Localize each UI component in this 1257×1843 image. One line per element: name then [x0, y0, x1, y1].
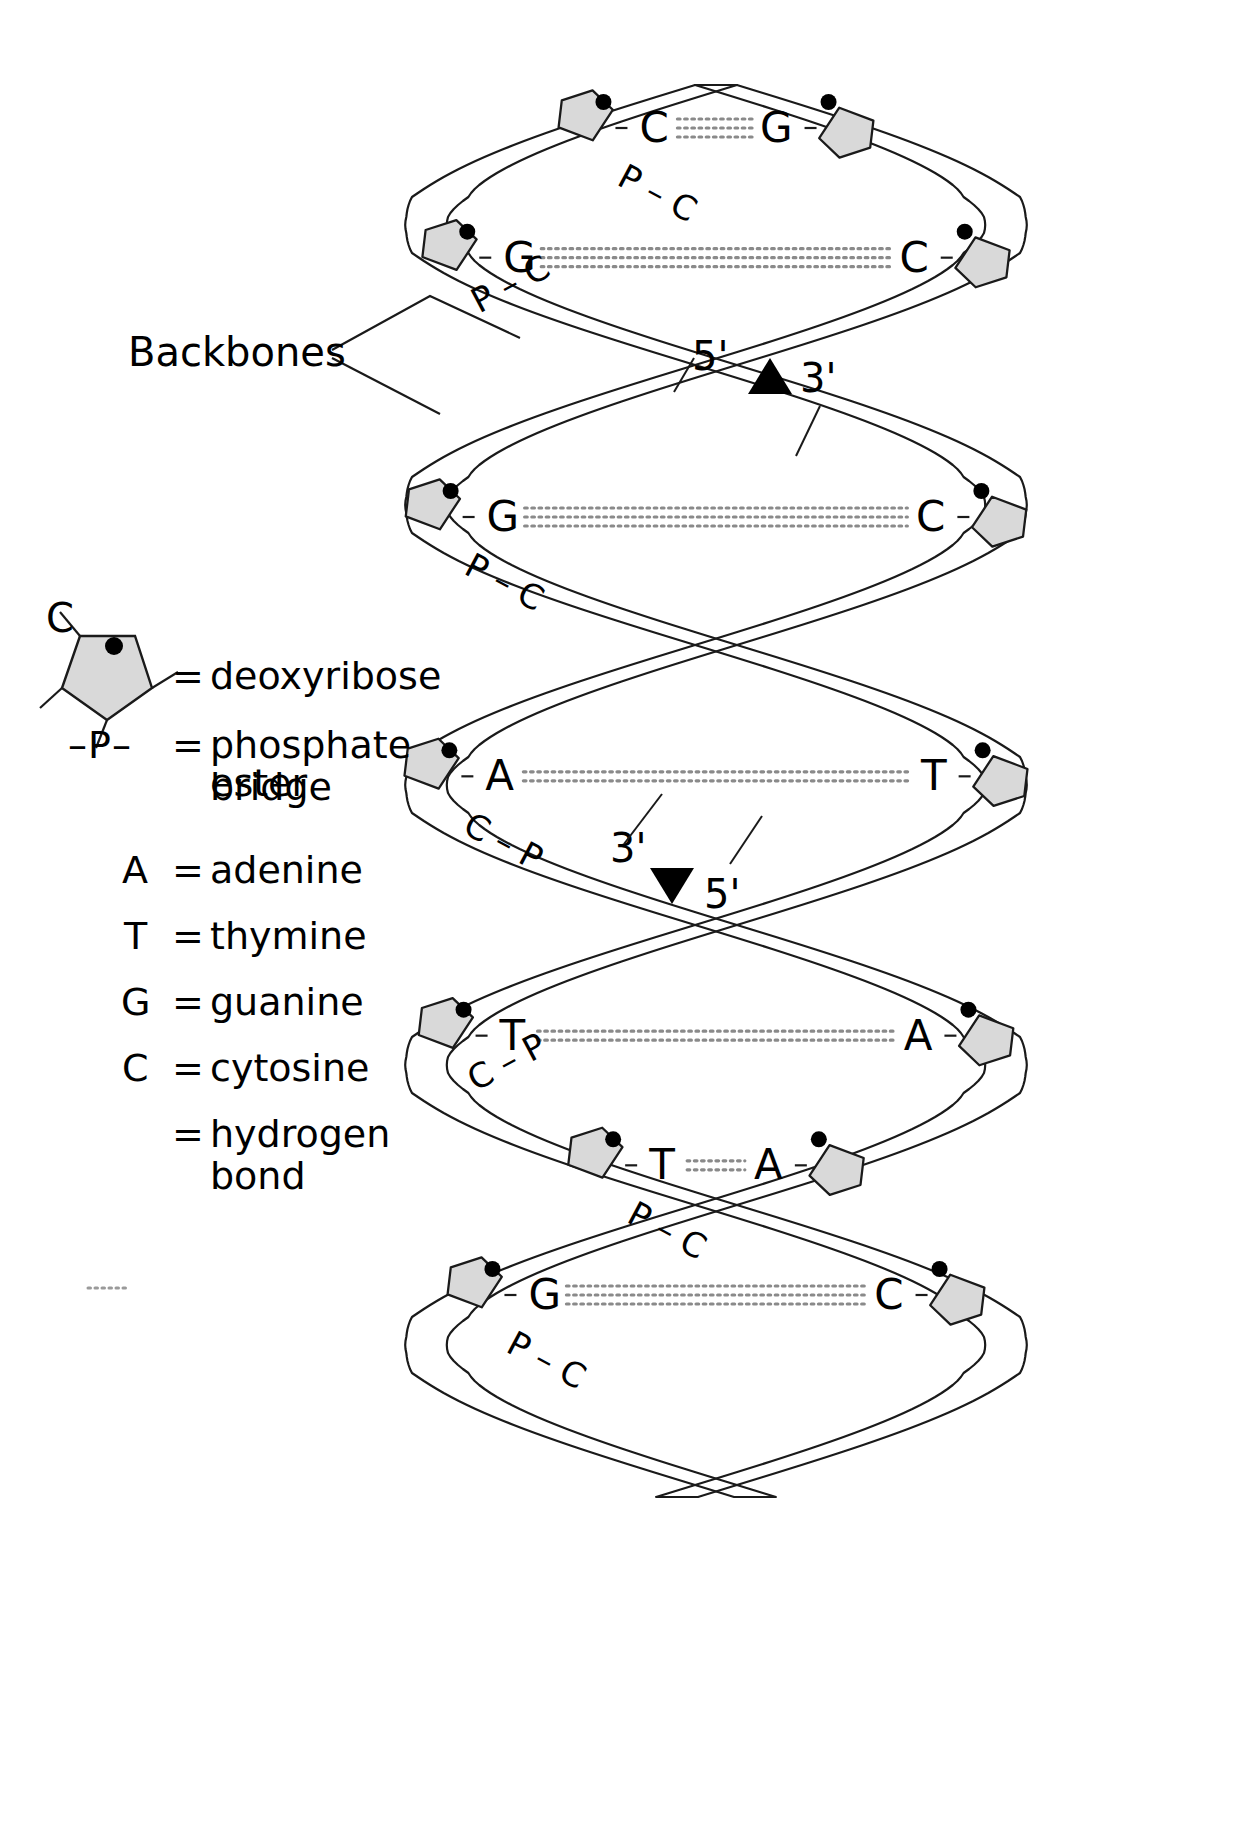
base-letter-right: A [754, 1140, 783, 1189]
five-prime-label-bottom: 5' [704, 871, 740, 917]
backbone-chem-label: P – C [612, 156, 704, 230]
backbone-chem-label: P – C [501, 1323, 593, 1397]
backbones-label: Backbones [128, 332, 346, 372]
backbone-chem-label: C – P [458, 804, 550, 878]
hydrogen-bond-group [538, 1031, 895, 1040]
polarity-leader-bot-b [730, 816, 762, 864]
polarity-marker-bottom: 3'5' [610, 794, 762, 917]
base-letter-left: G [487, 492, 520, 541]
three-prime-label-bottom: 3' [610, 825, 646, 871]
three-prime-label-top: 3' [800, 355, 836, 401]
base-letter-right: G [760, 103, 793, 152]
base-letter-right: C [916, 492, 945, 541]
dna-diagram-canvas: CGP – CGCP – CGCP – CATC – PTAC – PTAP –… [0, 0, 1257, 1843]
hydrogen-bond-group [687, 1161, 745, 1170]
base-letter-right: T [920, 751, 947, 800]
polarity-leader-top-b [796, 406, 820, 456]
base-letter-right: C [874, 1270, 903, 1319]
hydrogen-bond-group [541, 249, 890, 267]
base-letter-left: A [485, 751, 514, 800]
base-letter-left: G [528, 1270, 561, 1319]
base-letter-right: A [904, 1011, 933, 1060]
base-letter-left: T [648, 1140, 675, 1189]
hydrogen-bond-group [523, 772, 908, 781]
polarity-arrow-down-icon [650, 868, 694, 904]
backbone-chem-label: P – C [621, 1193, 713, 1267]
five-prime-label-top: 5' [692, 333, 728, 379]
hydrogen-bond-group [525, 508, 908, 526]
base-letter-left: C [639, 103, 668, 152]
hydrogen-bond-group [677, 119, 754, 137]
polarity-arrow-up-icon [748, 358, 792, 394]
polarity-leader-top-a [674, 358, 694, 392]
diagram-text-layer: CGP – CGCP – CGCP – CATC – PTAC – PTAP –… [0, 0, 1257, 1843]
hydrogen-bond-group [566, 1286, 865, 1304]
polarity-marker-top: 5'3' [674, 333, 836, 456]
backbone-chem-label: P – C [459, 545, 551, 619]
base-letter-right: C [899, 233, 928, 282]
